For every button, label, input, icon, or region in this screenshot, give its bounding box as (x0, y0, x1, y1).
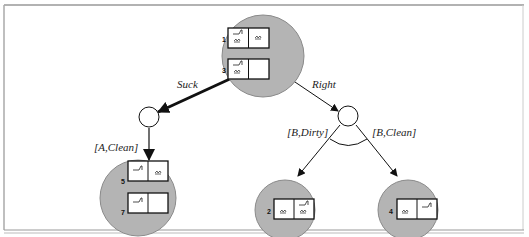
label-a-clean: [A,Clean] (94, 141, 138, 153)
label-b-dirty: [B,Dirty] (287, 126, 328, 138)
label-b-clean: [B,Clean] (372, 126, 416, 138)
svg-text:4: 4 (389, 208, 393, 215)
state-node-suck-result: 5 7 (100, 160, 176, 236)
state-node-b-clean: 4 (378, 180, 438, 237)
svg-text:7: 7 (121, 209, 125, 216)
and-or-tree-diagram: 1 3 5 7 2 4 Suck Right [A,Clean] [ (0, 0, 529, 237)
svg-text:1: 1 (222, 36, 226, 43)
svg-text:3: 3 (222, 67, 226, 74)
and-arc (330, 139, 367, 146)
or-node-right (338, 106, 358, 126)
svg-text:5: 5 (121, 178, 125, 185)
state-node-root: 1 3 (222, 15, 304, 97)
label-suck: Suck (177, 78, 199, 90)
svg-text:2: 2 (267, 208, 271, 215)
label-right: Right (311, 78, 337, 90)
state-node-b-dirty: 2 (255, 180, 315, 237)
or-node-suck (139, 107, 159, 127)
